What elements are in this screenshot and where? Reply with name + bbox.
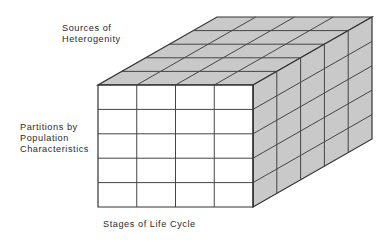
label-stages-of-life-cycle: Stages of Life Cycle xyxy=(103,219,196,230)
figure-root: Sources of Heterogenity Partitions by Po… xyxy=(0,0,391,243)
label-partitions-by-population-characteristics: Partitions by Population Characteristics xyxy=(20,122,89,156)
label-sources-of-heterogenity: Sources of Heterogenity xyxy=(62,23,121,45)
